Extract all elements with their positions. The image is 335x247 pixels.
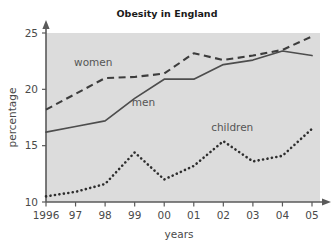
x-axis-title: years xyxy=(165,228,194,240)
x-tick-label: 04 xyxy=(276,209,290,221)
x-tick-label: 00 xyxy=(158,209,171,221)
x-tick-label: 02 xyxy=(217,209,230,221)
obesity-line-chart: Obesity in England 10152025 199697989900… xyxy=(0,0,335,247)
x-tick-label: 01 xyxy=(187,209,200,221)
x-tick-label: 98 xyxy=(98,209,111,221)
y-axis-title: percentage xyxy=(6,88,18,148)
x-tick-label: 97 xyxy=(69,209,82,221)
y-tick-label: 25 xyxy=(25,27,38,39)
series-label-women: women xyxy=(74,56,112,68)
y-tick-label: 15 xyxy=(25,139,38,151)
x-tick-label: 03 xyxy=(246,209,259,221)
chart-title: Obesity in England xyxy=(117,8,218,19)
x-tick-label: 99 xyxy=(128,209,141,221)
x-tick-label: 1996 xyxy=(33,209,60,221)
x-tick-label: 05 xyxy=(305,209,318,221)
series-label-children: children xyxy=(211,121,253,133)
series-label-men: men xyxy=(132,96,155,108)
y-tick-label: 20 xyxy=(25,83,38,95)
y-tick-label: 10 xyxy=(25,196,38,208)
